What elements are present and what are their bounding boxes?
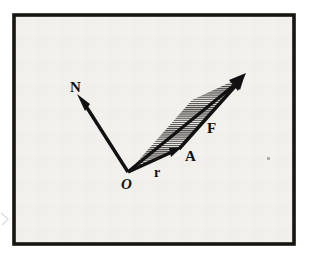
label-F: F (207, 120, 216, 136)
label-r: r (154, 165, 160, 180)
scan-speck-artifact (267, 157, 270, 160)
figure-root: N O r A F (0, 0, 310, 262)
figure-frame (14, 15, 294, 244)
label-O: O (121, 176, 132, 192)
label-A: A (185, 148, 196, 164)
vector-diagram-svg: N O r A F (0, 0, 310, 262)
label-N: N (70, 79, 81, 95)
